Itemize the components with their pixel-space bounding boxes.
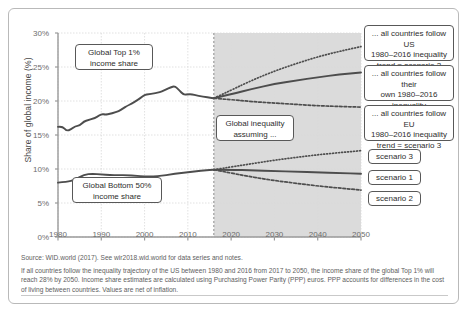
x-tick-label: 2000 (125, 230, 165, 239)
series-line (58, 87, 214, 131)
callout-bottom50-income-share: Global Bottom 50%income share (72, 177, 162, 203)
callout-scenario1-line-1: ... all countries follow their (369, 69, 449, 90)
callout-scenario3-line-2: 1980–2016 inequality (369, 130, 449, 141)
footnote-note: If all countries follow the inequality t… (21, 266, 449, 294)
x-tick-label: 1980 (38, 230, 78, 239)
callout-bottom50-line-1: Global Bottom 50% (77, 181, 157, 192)
callout-top1-line-2: income share (80, 59, 148, 70)
callout-top1-income-share: Global Top 1%income share (75, 44, 153, 70)
tag-scenario-3: scenario 3 (368, 149, 421, 164)
x-tick-label: 2040 (298, 230, 338, 239)
callout-global-inequality-assuming: Global inequalityassuming ... (216, 115, 294, 141)
tag-scenario-2: scenario 2 (368, 191, 421, 206)
callout-assuming-line-1: Global inequality (221, 119, 289, 130)
x-tick-label: 1990 (81, 230, 121, 239)
callout-assuming-line-2: assuming ... (221, 130, 289, 141)
callout-scenario2-line-1: ... all countries follow US (369, 29, 449, 50)
footnote-divider (21, 295, 448, 296)
x-tick-label: 2020 (211, 230, 251, 239)
footnote-block: Source: WID.world (2017). See wir2018.wi… (21, 253, 449, 298)
x-tick-label: 2050 (341, 230, 381, 239)
callout-bottom50-line-2: income share (77, 192, 157, 203)
x-tick-label: 2010 (168, 230, 208, 239)
footnote-source: Source: WID.world (2017). See wir2018.wi… (21, 253, 449, 262)
callout-scenario3-line-1: ... all countries follow EU (369, 109, 449, 130)
x-tick-label: 2030 (254, 230, 294, 239)
callout-top1-line-1: Global Top 1% (80, 48, 148, 59)
callout-scenario1-description: ... all countries follow theirown 1980–2… (364, 65, 454, 101)
tag-scenario-1: scenario 1 (368, 170, 421, 185)
callout-scenario2-description: ... all countries follow US1980–2016 ine… (364, 25, 454, 61)
chart-plot-area: Share of global income (%) 30%25%20%15%1… (9, 9, 460, 243)
callout-scenario3-description: ... all countries follow EU1980–2016 ine… (364, 105, 454, 141)
callout-scenario2-line-2: 1980–2016 inequality (369, 50, 449, 61)
figure-container: Share of global income (%) 30%25%20%15%1… (8, 8, 459, 304)
